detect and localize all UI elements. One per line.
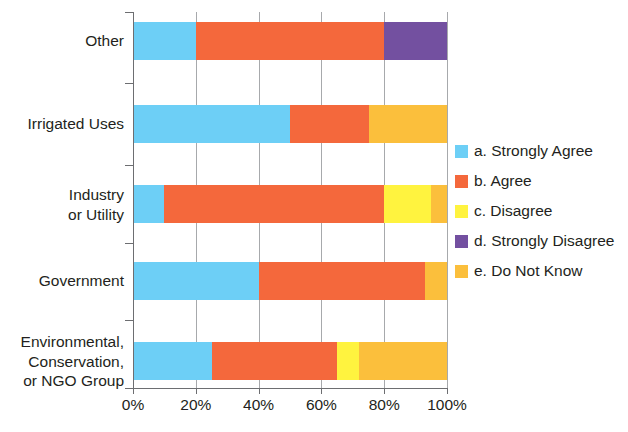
x-tick-label: 100% <box>427 396 467 414</box>
bar-segment <box>425 262 447 300</box>
x-tick-20 <box>196 388 197 394</box>
bar-row <box>133 22 447 60</box>
bar-segment <box>337 342 359 380</box>
bar-segment <box>384 185 431 223</box>
x-tick-label: 80% <box>369 396 400 414</box>
gridline-100 <box>447 12 448 388</box>
x-tick-label: 60% <box>306 396 337 414</box>
legend-swatch-icon <box>455 235 468 248</box>
legend-label: d. Strongly Disagree <box>474 232 614 250</box>
bar-segment <box>431 185 447 223</box>
bar-segment <box>133 342 212 380</box>
category-label-line: Irrigated Uses <box>0 114 124 134</box>
category-label: Industryor Utility <box>0 185 124 224</box>
legend-swatch-icon <box>455 205 468 218</box>
legend-item: b. Agree <box>455 166 614 196</box>
y-tick-4 <box>125 320 133 321</box>
category-label: Irrigated Uses <box>0 114 124 134</box>
category-label-line: or NGO Group <box>0 371 124 391</box>
bar-row <box>133 105 447 143</box>
x-tick-label: 40% <box>243 396 274 414</box>
bar-row <box>133 185 447 223</box>
category-label-line: Industry <box>0 185 124 205</box>
bar-segment <box>290 105 369 143</box>
bar-row <box>133 342 447 380</box>
category-label-line: Conservation, <box>0 351 124 371</box>
bar-segment <box>259 262 425 300</box>
legend-item: c. Disagree <box>455 196 614 226</box>
category-label: Environmental,Conservation,or NGO Group <box>0 332 124 391</box>
bar-segment <box>359 342 447 380</box>
x-tick-label: 0% <box>122 396 144 414</box>
category-label-line: Environmental, <box>0 332 124 352</box>
legend: a. Strongly Agreeb. Agreec. Disagreed. S… <box>455 136 614 286</box>
bar-row <box>133 262 447 300</box>
legend-label: c. Disagree <box>474 202 552 220</box>
category-label: Government <box>0 271 124 291</box>
legend-label: a. Strongly Agree <box>474 142 593 160</box>
y-tick-0 <box>125 12 133 13</box>
legend-swatch-icon <box>455 265 468 278</box>
legend-label: e. Do Not Know <box>474 262 583 280</box>
legend-label: b. Agree <box>474 172 532 190</box>
bar-segment <box>384 22 447 60</box>
bar-segment <box>369 105 448 143</box>
category-label-line: Government <box>0 271 124 291</box>
bar-segment <box>196 22 384 60</box>
bar-segment <box>133 185 164 223</box>
legend-swatch-icon <box>455 175 468 188</box>
y-tick-5 <box>125 388 133 389</box>
y-tick-3 <box>125 243 133 244</box>
y-axis-line <box>133 12 134 388</box>
x-tick-label: 20% <box>180 396 211 414</box>
stacked-bar-chart: OtherIrrigated UsesIndustryor UtilityGov… <box>0 0 628 432</box>
legend-item: a. Strongly Agree <box>455 136 614 166</box>
y-tick-1 <box>125 83 133 84</box>
category-label-line: Other <box>0 31 124 51</box>
x-tick-100 <box>447 388 448 394</box>
legend-item: e. Do Not Know <box>455 256 614 286</box>
x-tick-40 <box>259 388 260 394</box>
category-label: Other <box>0 31 124 51</box>
legend-swatch-icon <box>455 145 468 158</box>
plot-area <box>133 12 447 388</box>
y-tick-2 <box>125 165 133 166</box>
x-axis-line <box>133 388 448 389</box>
legend-item: d. Strongly Disagree <box>455 226 614 256</box>
bar-segment <box>212 342 338 380</box>
x-tick-80 <box>384 388 385 394</box>
x-tick-0 <box>133 388 134 394</box>
bar-segment <box>133 105 290 143</box>
x-tick-60 <box>321 388 322 394</box>
bar-segment <box>164 185 384 223</box>
bar-segment <box>133 262 259 300</box>
category-label-line: or Utility <box>0 204 124 224</box>
bar-segment <box>133 22 196 60</box>
